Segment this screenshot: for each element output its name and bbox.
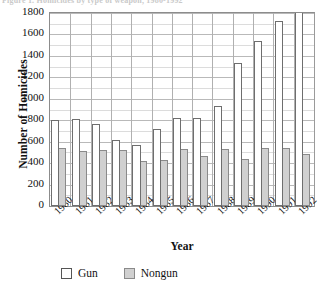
y-axis-tick-label: 1800 [0, 6, 44, 17]
bar-gun [275, 21, 283, 206]
bar-gun [254, 41, 262, 206]
y-axis-tick-label: 400 [0, 156, 44, 167]
bar-gun [173, 118, 181, 206]
bar-gun [193, 118, 201, 206]
gridline-horizontal [50, 13, 314, 14]
y-axis-tick-label: 1400 [0, 49, 44, 60]
bar-gun [112, 140, 120, 206]
bar-gun [295, 13, 303, 206]
legend-label-nongun: Nongun [141, 267, 178, 279]
y-axis-tick-label: 800 [0, 113, 44, 124]
figure-caption: Figure 1. Homicides by type of weapon, 1… [2, 0, 302, 5]
bar-nongun [261, 148, 269, 206]
y-axis-tick-labels: 020040060080010001200140016001800 [0, 0, 46, 288]
legend-item-gun[interactable]: Gun [61, 267, 98, 279]
legend-label-gun: Gun [78, 267, 98, 279]
bar-gun [234, 63, 242, 206]
bar-nongun [241, 159, 249, 206]
y-axis-tick-label: 1000 [0, 92, 44, 103]
chart-legend: Gun Nongun [49, 264, 315, 282]
bar-nongun [180, 149, 188, 206]
y-axis-tick-label: 0 [0, 199, 44, 210]
bar-nongun [139, 161, 147, 206]
bar-nongun [160, 160, 168, 206]
bar-nongun [282, 148, 290, 206]
bar-nongun [99, 150, 107, 206]
bar-gun [92, 124, 100, 206]
bar-gun [153, 129, 161, 206]
bar-nongun [58, 148, 66, 206]
plot-area [49, 12, 315, 207]
y-axis-tick-label: 1200 [0, 70, 44, 81]
bar-gun [214, 106, 222, 206]
y-axis-tick-label: 600 [0, 135, 44, 146]
bar-nongun [78, 151, 86, 206]
legend-swatch-gun-icon [61, 268, 72, 279]
bar-nongun [221, 149, 229, 206]
y-axis-tick-label: 1600 [0, 27, 44, 38]
plot-inner [50, 13, 314, 206]
bar-gun [51, 120, 59, 206]
bar-nongun [200, 156, 208, 206]
bar-gun [132, 145, 140, 206]
legend-swatch-nongun-icon [124, 268, 135, 279]
legend-item-nongun[interactable]: Nongun [124, 267, 178, 279]
x-axis-title: Year [49, 240, 315, 252]
y-axis-tick-label: 200 [0, 178, 44, 189]
bar-gun [72, 119, 80, 206]
bar-nongun [302, 154, 310, 206]
